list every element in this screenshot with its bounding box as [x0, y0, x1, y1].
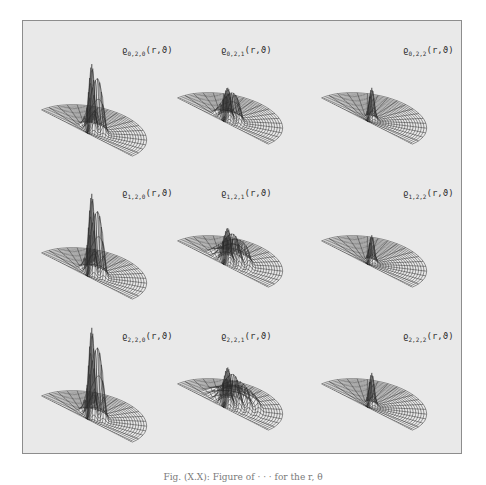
plot-label: ϱ0,2,1(r,ϑ) — [221, 45, 272, 57]
plot-label: ϱ2,2,2(r,ϑ) — [403, 331, 454, 343]
plot-label: ϱ1,2,1(r,ϑ) — [221, 188, 272, 200]
surface-plot-2-2-2: ϱ2,2,2(r,ϑ) — [315, 311, 461, 455]
plot-label: ϱ1,2,2(r,ϑ) — [403, 188, 454, 200]
surface-plot-0-2-2: ϱ0,2,2(r,ϑ) — [315, 25, 461, 169]
plot-label: ϱ2,2,0(r,ϑ) — [122, 331, 173, 343]
surface-plot-1-2-0: ϱ1,2,0(r,ϑ) — [27, 168, 173, 312]
surface-plot-2-2-1: ϱ2,2,1(r,ϑ) — [171, 311, 317, 455]
figure-caption: Fig. (X.X): Figure of · · · for the r, θ — [0, 472, 486, 482]
surface-plot-2-2-0: ϱ2,2,0(r,ϑ) — [27, 311, 173, 455]
plot-label: ϱ0,2,2(r,ϑ) — [403, 45, 454, 57]
plot-label: ϱ1,2,0(r,ϑ) — [122, 188, 173, 200]
surface-plot-1-2-2: ϱ1,2,2(r,ϑ) — [315, 168, 461, 312]
plot-label: ϱ0,2,0(r,ϑ) — [122, 45, 173, 57]
surface-plot-0-2-0: ϱ0,2,0(r,ϑ) — [27, 25, 173, 169]
surface-plot-1-2-1: ϱ1,2,1(r,ϑ) — [171, 168, 317, 312]
plot-label: ϱ2,2,1(r,ϑ) — [221, 331, 272, 343]
figure-frame: ϱ0,2,0(r,ϑ)ϱ0,2,1(r,ϑ)ϱ0,2,2(r,ϑ)ϱ1,2,0(… — [22, 20, 462, 454]
surface-plot-0-2-1: ϱ0,2,1(r,ϑ) — [171, 25, 317, 169]
